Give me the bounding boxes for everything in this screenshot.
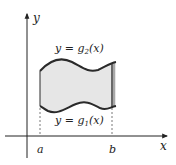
upper-label-tail: (x): [89, 42, 104, 55]
upper-label-main: y = g: [54, 42, 84, 55]
lower-label-main: y = g: [54, 114, 84, 127]
tick-label-b: b: [109, 143, 116, 156]
lower-label-tail: (x): [89, 114, 104, 127]
upper-curve-label: y = g2(x): [54, 42, 104, 56]
region-diagram: y x a b y = g2(x) y = g1(x): [0, 0, 176, 165]
y-axis-label: y: [32, 11, 40, 25]
lower-curve-label: y = g1(x): [54, 114, 104, 128]
tick-label-a: a: [37, 143, 44, 156]
x-axis-label: x: [160, 139, 167, 153]
